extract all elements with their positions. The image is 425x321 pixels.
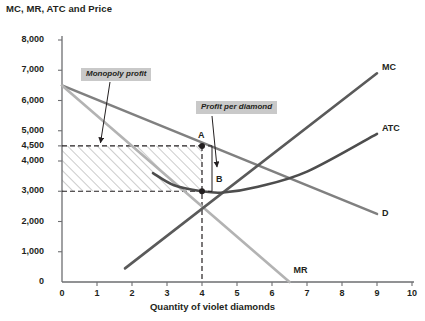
y-tick-label: 8,000: [4, 34, 44, 44]
y-tick-label: 1,000: [4, 246, 44, 256]
y-tick-label: 4,000: [4, 155, 44, 165]
x-tick-label: 3: [157, 288, 177, 298]
annotation-profit-per-diamond: Profit per diamond: [196, 101, 277, 114]
x-tick-label: 7: [297, 288, 317, 298]
x-tick-label: 8: [332, 288, 352, 298]
y-tick-label: 0: [4, 276, 44, 286]
y-tick-label: 2,000: [4, 216, 44, 226]
y-tick-label: 5,000: [4, 125, 44, 135]
x-axis-title: Quantity of violet diamonds: [0, 301, 425, 312]
point-label-b: B: [216, 174, 223, 184]
x-tick-label: 1: [87, 288, 107, 298]
y-tick-label: 6,000: [4, 95, 44, 105]
plot-area: [0, 0, 425, 321]
annotation-monopoly-profit: Monopoly profit: [81, 68, 151, 81]
series-label-atc: ATC: [382, 123, 400, 133]
x-tick-label: 5: [227, 288, 247, 298]
series-label-mr: MR: [294, 265, 308, 275]
x-tick-label: 9: [367, 288, 387, 298]
y-tick-label: 3,000: [4, 185, 44, 195]
x-tick-label: 4: [192, 288, 212, 298]
point-label-a: A: [198, 130, 205, 140]
monopoly-profit-area: [62, 146, 202, 191]
profit-bracket: [208, 146, 212, 191]
y-tick-label: 4,500: [4, 140, 44, 150]
chart-canvas: MC, MR, ATC and Price 01,0002,0003,0004,…: [0, 0, 425, 321]
x-tick-label: 2: [122, 288, 142, 298]
x-tick-label: 10: [402, 288, 422, 298]
x-tick-label: 0: [52, 288, 72, 298]
series-label-d: D: [382, 208, 389, 218]
series-label-mc: MC: [382, 62, 396, 72]
x-tick-label: 6: [262, 288, 282, 298]
y-tick-label: 7,000: [4, 64, 44, 74]
